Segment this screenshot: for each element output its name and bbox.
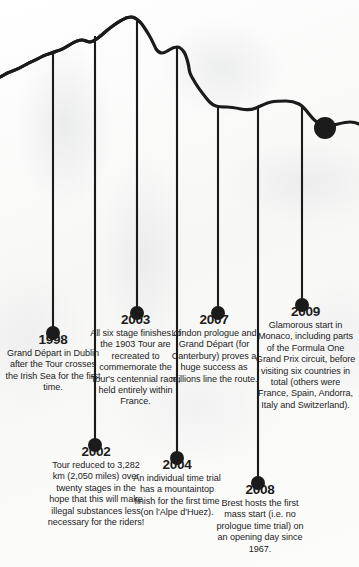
event-description-2004: An individual time trial has a mountaint… bbox=[131, 473, 223, 519]
event-year-2004: 2004 bbox=[131, 457, 223, 472]
event-description-2009: Glamorous start in Monaco, including par… bbox=[255, 320, 356, 411]
event-year-2003: 2003 bbox=[89, 312, 182, 327]
event-block-1998: 1998 Grand Départ in Dublin after the To… bbox=[4, 332, 102, 394]
event-description-2008: Brest hosts the first mass start (i.e. n… bbox=[216, 498, 304, 555]
finish-dot bbox=[314, 117, 336, 139]
event-block-2004: 2004 An individual time trial has a moun… bbox=[131, 457, 223, 519]
event-description-1998: Grand Départ in Dublin after the Tour cr… bbox=[4, 348, 102, 394]
event-block-2007: 2007 London prologue and Grand Départ (f… bbox=[170, 312, 258, 385]
event-year-2007: 2007 bbox=[170, 312, 258, 327]
event-description-2007: London prologue and Grand Départ (for Ca… bbox=[170, 328, 258, 385]
event-block-2003: 2003 All six stage finishes of the 1903 … bbox=[89, 312, 182, 408]
event-year-2009: 2009 bbox=[255, 304, 356, 319]
event-block-2009: 2009 Glamorous start in Monaco, includin… bbox=[255, 304, 356, 411]
event-year-1998: 1998 bbox=[4, 332, 102, 347]
event-block-2008: 2008 Brest hosts the first mass start (i… bbox=[216, 482, 304, 555]
infographic-canvas: 1998 Grand Départ in Dublin after the To… bbox=[0, 0, 359, 567]
event-description-2003: All six stage finishes of the 1903 Tour … bbox=[89, 328, 182, 408]
event-year-2008: 2008 bbox=[216, 482, 304, 497]
